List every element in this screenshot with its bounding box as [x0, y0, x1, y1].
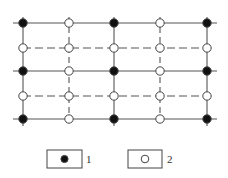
- filled-node: [203, 67, 211, 75]
- legend-label-2: 2: [167, 153, 173, 165]
- open-node: [203, 44, 211, 52]
- open-node: [19, 44, 27, 52]
- filled-node: [110, 19, 118, 27]
- open-node: [65, 92, 73, 100]
- legend-open-node-icon: [141, 155, 149, 163]
- open-node: [65, 44, 73, 52]
- open-node: [156, 115, 164, 123]
- open-node: [110, 44, 118, 52]
- grid-diagram: [0, 0, 228, 178]
- filled-node: [110, 115, 118, 123]
- open-node: [203, 92, 211, 100]
- filled-node: [203, 115, 211, 123]
- open-node: [156, 92, 164, 100]
- filled-node: [203, 19, 211, 27]
- filled-node: [110, 67, 118, 75]
- filled-node: [19, 19, 27, 27]
- legend-filled-node-icon: [61, 155, 68, 162]
- open-node: [110, 92, 118, 100]
- filled-node: [19, 67, 27, 75]
- open-node: [65, 115, 73, 123]
- open-node: [156, 19, 164, 27]
- open-node: [156, 67, 164, 75]
- open-node: [156, 44, 164, 52]
- filled-node: [19, 115, 27, 123]
- open-node: [19, 92, 27, 100]
- open-node: [65, 19, 73, 27]
- legend-label-1: 1: [86, 153, 92, 165]
- open-node: [65, 67, 73, 75]
